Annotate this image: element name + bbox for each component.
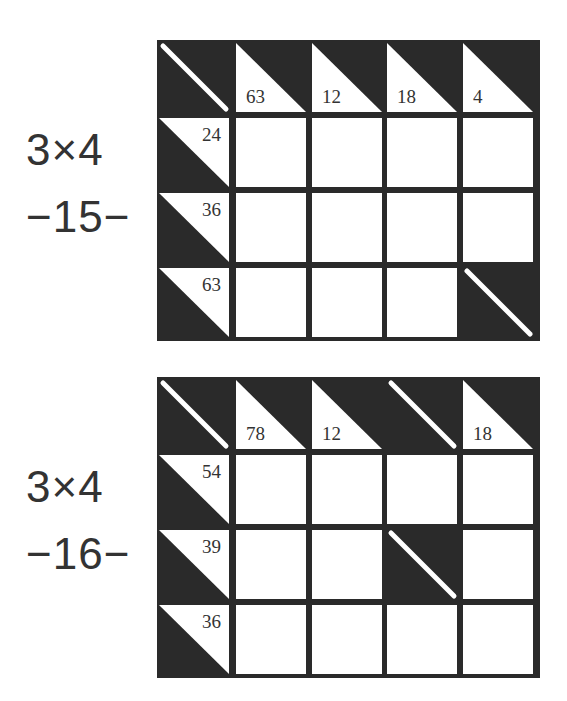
- row-clue-cell: 39: [159, 530, 229, 599]
- diagonal-stripe-icon: [463, 268, 533, 337]
- answer-cell[interactable]: [236, 455, 306, 524]
- row-clue: 63: [202, 275, 221, 294]
- column-clue-cell: 63: [236, 43, 306, 112]
- column-clue: 78: [246, 424, 265, 443]
- answer-cell[interactable]: [387, 118, 457, 187]
- column-clue: 12: [322, 87, 341, 106]
- puzzle-15: 3×4 −15− 6312184243663: [0, 35, 567, 345]
- answer-cell[interactable]: [312, 193, 382, 262]
- column-clue-cell: 78: [236, 380, 306, 449]
- answer-cell[interactable]: [236, 268, 306, 337]
- blocked-cell: [159, 43, 229, 112]
- column-clue: 63: [246, 87, 265, 106]
- answer-cell[interactable]: [387, 455, 457, 524]
- diagonal-stripe-icon: [159, 380, 229, 449]
- answer-cell[interactable]: [463, 455, 533, 524]
- puzzle-number-label: −15−: [26, 195, 130, 239]
- column-clue-cell: 18: [463, 380, 533, 449]
- row-clue: 24: [202, 125, 221, 144]
- answer-cell[interactable]: [312, 455, 382, 524]
- answer-cell[interactable]: [312, 605, 382, 674]
- row-clue: 36: [202, 612, 221, 631]
- diagonal-stripe-icon: [159, 43, 229, 112]
- answer-cell[interactable]: [312, 118, 382, 187]
- row-clue-cell: 63: [159, 268, 229, 337]
- row-clue-cell: 54: [159, 455, 229, 524]
- blocked-cell: [463, 268, 533, 337]
- answer-cell[interactable]: [312, 268, 382, 337]
- row-clue: 54: [202, 462, 221, 481]
- blocked-cell: [387, 380, 457, 449]
- kakuro-grid: 6312184243663: [157, 40, 540, 341]
- column-clue-cell: 12: [312, 43, 382, 112]
- diagonal-stripe-icon: [387, 530, 457, 599]
- kakuro-grid: 781218543936: [157, 377, 540, 678]
- answer-cell[interactable]: [463, 118, 533, 187]
- column-clue: 18: [473, 424, 492, 443]
- answer-cell[interactable]: [312, 530, 382, 599]
- answer-cell[interactable]: [463, 193, 533, 262]
- row-clue: 36: [202, 200, 221, 219]
- column-clue-cell: 18: [387, 43, 457, 112]
- blocked-cell: [387, 530, 457, 599]
- column-clue: 18: [397, 87, 416, 106]
- answer-cell[interactable]: [463, 530, 533, 599]
- row-clue-cell: 24: [159, 118, 229, 187]
- column-clue-cell: 4: [463, 43, 533, 112]
- column-clue-cell: 12: [312, 380, 382, 449]
- answer-cell[interactable]: [387, 605, 457, 674]
- row-clue-cell: 36: [159, 605, 229, 674]
- answer-cell[interactable]: [463, 605, 533, 674]
- answer-cell[interactable]: [236, 605, 306, 674]
- row-clue: 39: [202, 537, 221, 556]
- answer-cell[interactable]: [387, 193, 457, 262]
- column-clue: 4: [473, 87, 483, 106]
- diagonal-stripe-icon: [387, 380, 457, 449]
- puzzle-size-label: 3×4: [26, 128, 104, 172]
- answer-cell[interactable]: [236, 530, 306, 599]
- puzzle-16: 3×4 −16− 781218543936: [0, 372, 567, 682]
- column-clue: 12: [322, 424, 341, 443]
- puzzle-number-label: −16−: [26, 532, 130, 576]
- answer-cell[interactable]: [236, 193, 306, 262]
- answer-cell[interactable]: [387, 268, 457, 337]
- puzzle-size-label: 3×4: [26, 465, 104, 509]
- row-clue-cell: 36: [159, 193, 229, 262]
- blocked-cell: [159, 380, 229, 449]
- answer-cell[interactable]: [236, 118, 306, 187]
